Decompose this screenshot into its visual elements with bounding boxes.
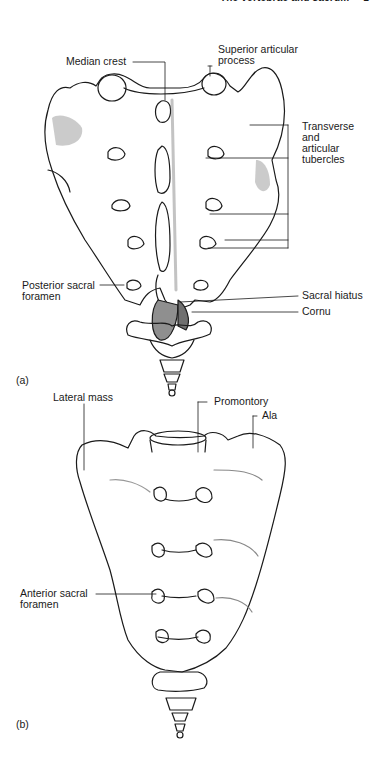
label-lateral-mass: Lateral mass: [53, 392, 113, 403]
figure-tag-b: (b): [16, 718, 29, 730]
label-posterior-foramen-line2: foramen: [22, 291, 61, 302]
sacrum-illustration: [0, 0, 384, 771]
figure-tag-a: (a): [16, 374, 29, 386]
label-sacral-hiatus: Sacral hiatus: [302, 290, 363, 301]
label-transverse-line4: tubercles: [302, 154, 345, 165]
label-median-crest: Median crest: [66, 56, 126, 67]
anterior-sacrum-drawing: [76, 431, 285, 738]
label-promontory: Promontory: [214, 396, 268, 407]
posterior-sacrum-drawing: [45, 68, 285, 396]
label-ala: Ala: [262, 410, 277, 421]
label-cornu: Cornu: [302, 306, 331, 317]
label-superior-articular-line2: process: [218, 55, 255, 66]
label-anterior-foramen-line2: foramen: [20, 599, 59, 610]
